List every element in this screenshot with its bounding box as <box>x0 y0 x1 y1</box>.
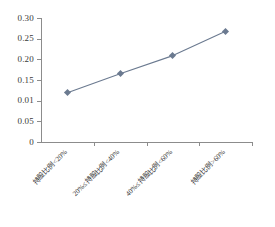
y-axis-line <box>41 18 42 142</box>
x-axis-category-label: 持股比例<20% <box>32 149 69 186</box>
y-axis-tick-label: 0.20 <box>17 55 34 64</box>
y-axis-tick <box>37 142 41 143</box>
y-axis-tick-label: 0.30 <box>17 14 34 23</box>
x-axis-category-label: 40%≤持股比例<60% <box>125 149 174 198</box>
x-axis-category-label: 20%≤持股比例<40% <box>72 149 121 198</box>
y-axis-tick-label: 0.25 <box>17 34 34 43</box>
x-axis-tick <box>147 142 148 146</box>
line-chart: 0.300.250.200.150.010.050 持股比例<20%20%≤持股… <box>0 0 275 227</box>
x-axis-tick <box>199 142 200 146</box>
data-point-marker <box>169 52 176 59</box>
y-axis-tick <box>37 101 41 102</box>
y-axis-tick <box>37 121 41 122</box>
data-point-marker <box>117 70 124 77</box>
data-point-marker <box>222 28 229 35</box>
y-axis-tick-label: 0.05 <box>17 117 34 126</box>
y-axis-tick-label: 0 <box>29 138 34 147</box>
x-axis-category-label: 持股比例>60% <box>190 149 227 186</box>
y-axis-tick-label: 0.01 <box>17 96 34 105</box>
y-axis-tick <box>37 39 41 40</box>
y-axis-tick-label: 0.15 <box>17 76 34 85</box>
x-axis-tick <box>94 142 95 146</box>
x-axis-tick <box>252 142 253 146</box>
y-axis-tick <box>37 18 41 19</box>
y-axis-tick <box>37 59 41 60</box>
data-point-marker <box>64 89 71 96</box>
y-axis-tick <box>37 80 41 81</box>
